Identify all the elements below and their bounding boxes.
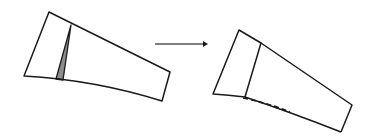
- transform-arrow: [155, 41, 208, 47]
- before-shape: [24, 12, 170, 101]
- after-shape-left-block: [213, 30, 261, 97]
- after-shape: [213, 30, 352, 132]
- arrow-head-icon: [203, 41, 208, 47]
- shaded-wedge: [56, 25, 71, 80]
- deformation-diagram: [0, 0, 373, 140]
- before-shape-outline: [24, 12, 170, 101]
- diagram-svg: [0, 0, 373, 140]
